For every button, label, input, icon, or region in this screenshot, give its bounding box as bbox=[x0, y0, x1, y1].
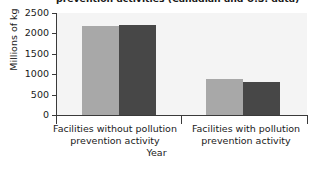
bar-2004-group-1 bbox=[243, 82, 280, 115]
y-tick-2000 bbox=[52, 33, 57, 34]
y-tick-500 bbox=[52, 95, 57, 96]
chart-title: prevention activities (Canadian and U.S.… bbox=[56, 0, 306, 4]
y-tick-2500 bbox=[52, 13, 57, 14]
x-category-label-0: Facilities without pollution prevention … bbox=[50, 123, 180, 146]
y-tick-label-2000: 2000 bbox=[0, 28, 49, 38]
group-separator-tick bbox=[181, 115, 182, 124]
x-category-label-1: Facilities with pollution prevention act… bbox=[185, 123, 307, 146]
y-tick-1500 bbox=[52, 54, 57, 55]
y-tick-label-1000: 1000 bbox=[0, 69, 49, 79]
x-axis-title: Year bbox=[0, 147, 313, 158]
bar-2002-group-0 bbox=[82, 26, 119, 115]
bar-2002-group-1 bbox=[206, 79, 243, 115]
x-axis-line bbox=[56, 115, 308, 116]
y-tick-label-1500: 1500 bbox=[0, 49, 49, 59]
bar-2004-group-0 bbox=[119, 25, 156, 115]
y-axis-line bbox=[56, 13, 57, 116]
axis-end-tick bbox=[307, 115, 308, 124]
bar-chart: prevention activities (Canadian and U.S.… bbox=[0, 0, 313, 169]
y-tick-label-0: 0 bbox=[0, 110, 49, 120]
y-tick-label-500: 500 bbox=[0, 90, 49, 100]
y-tick-1000 bbox=[52, 74, 57, 75]
y-tick-label-2500: 2500 bbox=[0, 8, 49, 18]
